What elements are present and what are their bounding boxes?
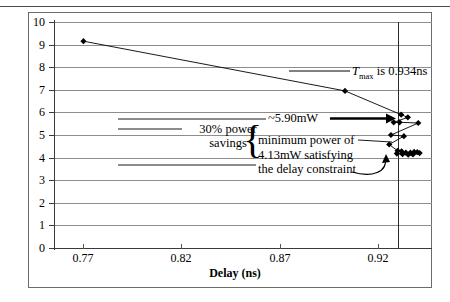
gridline-10 — [54, 22, 432, 23]
y-tick-mark-1 — [49, 225, 54, 226]
x-axis-title: Delay (ns) — [165, 266, 305, 281]
y-tick-label-2: 2 — [19, 197, 45, 209]
figure-root: 10 9 8 7 6 5 4 3 2 1 0 0.77 0.82 0.87 0.… — [0, 0, 450, 302]
gridline-9 — [54, 45, 432, 46]
y-tick-mark-0 — [49, 248, 54, 249]
y-tick-label-3: 3 — [19, 174, 45, 186]
x-tick-mark-0 — [83, 244, 84, 249]
x-tick-mark-2 — [280, 244, 281, 249]
minimum-power-line-1: minimum power of — [258, 133, 394, 148]
y-tick-label-7: 7 — [19, 84, 45, 96]
x-tick-mark-3 — [378, 244, 379, 249]
y-tick-label-8: 8 — [19, 61, 45, 73]
tmax-symbol: T — [352, 64, 359, 78]
minimum-power-annotation: minimum power of 4.13mW satisfying the d… — [258, 133, 394, 177]
power-590-annotation: ~5.90mW — [268, 112, 318, 125]
tmax-subscript: max — [359, 71, 374, 81]
x-tick-label-0: 0.77 — [60, 252, 106, 264]
gridline-3 — [54, 180, 432, 181]
minimum-power-line-2: 4.13mW satisfying — [258, 148, 394, 163]
x-tick-label-1: 0.82 — [158, 252, 204, 264]
y-tick-mark-2 — [49, 203, 54, 204]
y-axis-line — [54, 20, 55, 250]
y-tick-label-6: 6 — [19, 106, 45, 118]
y-tick-label-1: 1 — [19, 219, 45, 231]
top-divider-rule — [0, 6, 450, 7]
y-tick-mark-3 — [49, 180, 54, 181]
gridline-1 — [54, 225, 432, 226]
y-tick-label-0: 0 — [19, 242, 45, 254]
x-tick-label-2: 0.87 — [257, 252, 303, 264]
y-tick-label-9: 9 — [19, 39, 45, 51]
y-tick-mark-5 — [49, 135, 54, 136]
minimum-power-line-3: the delay constraint — [258, 162, 394, 177]
y-tick-label-4: 4 — [19, 152, 45, 164]
x-axis-line — [52, 248, 432, 249]
tmax-annotation: Tmax is 0.934ns — [352, 65, 427, 83]
y-tick-mark-4 — [49, 158, 54, 159]
y-tick-mark-9 — [49, 45, 54, 46]
x-tick-label-3: 0.92 — [355, 252, 401, 264]
gridline-2 — [54, 203, 432, 204]
gridline-7 — [54, 90, 432, 91]
y-tick-label-5: 5 — [19, 129, 45, 141]
y-tick-mark-7 — [49, 90, 54, 91]
gridline-6 — [54, 112, 432, 113]
y-tick-label-10: 10 — [19, 16, 45, 28]
y-tick-mark-6 — [49, 112, 54, 113]
tmax-value-text: is 0.934ns — [374, 64, 428, 78]
y-tick-mark-8 — [49, 67, 54, 68]
tmax-constraint-line — [398, 22, 399, 248]
x-tick-mark-1 — [181, 244, 182, 249]
y-tick-mark-10 — [49, 22, 54, 23]
